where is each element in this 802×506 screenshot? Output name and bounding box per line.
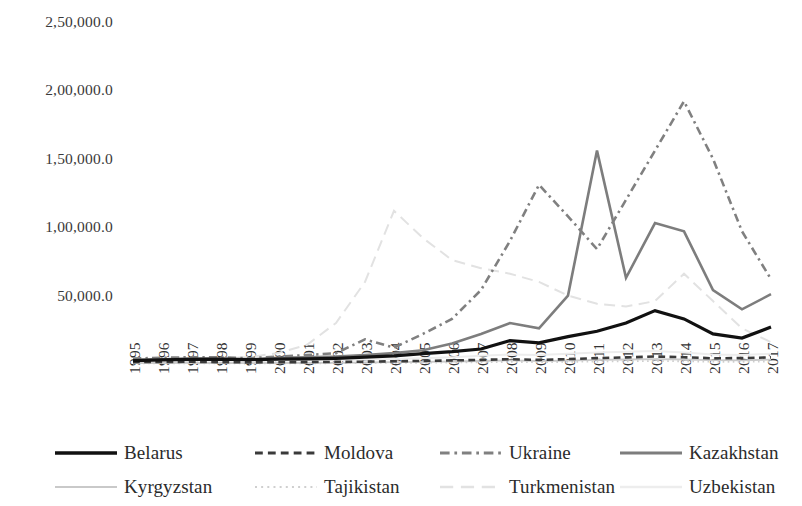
legend-item-tajikistan[interactable]: Tajikistan [255, 476, 400, 498]
legend-swatch-tajikistan [255, 480, 317, 494]
legend-label: Belarus [124, 442, 183, 464]
legend-swatch-kyrgyzstan [55, 480, 117, 494]
legend-item-moldova[interactable]: Moldova [255, 442, 393, 464]
legend-swatch-turkmenistan [440, 480, 502, 494]
legend-label: Tajikistan [324, 476, 400, 498]
legend-label: Kyrgyzstan [124, 476, 212, 498]
chart-container: 50,000.01,00,000.01,50,000.02,00,000.02,… [0, 0, 802, 506]
chart-legend: BelarusMoldovaUkraineKazakhstanKyrgyzsta… [0, 436, 802, 506]
legend-swatch-uzbekistan [620, 480, 682, 494]
legend-swatch-ukraine [440, 446, 502, 460]
legend-item-kazakhstan[interactable]: Kazakhstan [620, 442, 779, 464]
legend-label: Moldova [324, 442, 393, 464]
series-line-kazakhstan [133, 151, 771, 360]
legend-item-belarus[interactable]: Belarus [55, 442, 183, 464]
line-chart-plot [0, 0, 802, 380]
legend-label: Kazakhstan [689, 442, 779, 464]
legend-swatch-kazakhstan [620, 446, 682, 460]
legend-item-turkmenistan[interactable]: Turkmenistan [440, 476, 615, 498]
legend-swatch-moldova [255, 446, 317, 460]
legend-swatch-belarus [55, 446, 117, 460]
legend-label: Uzbekistan [689, 476, 775, 498]
legend-label: Turkmenistan [509, 476, 615, 498]
series-line-turkmenistan [133, 211, 771, 360]
legend-label: Ukraine [509, 442, 571, 464]
legend-item-uzbekistan[interactable]: Uzbekistan [620, 476, 775, 498]
legend-item-kyrgyzstan[interactable]: Kyrgyzstan [55, 476, 212, 498]
legend-item-ukraine[interactable]: Ukraine [440, 442, 571, 464]
